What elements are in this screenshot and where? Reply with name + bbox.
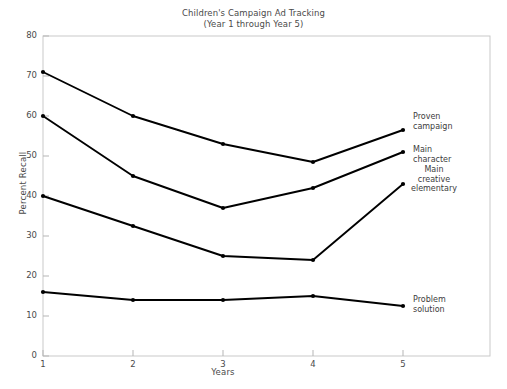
y-tick-label: 60 — [7, 110, 37, 120]
series-line-1 — [43, 116, 403, 208]
y-tick-label: 10 — [7, 310, 37, 320]
x-tick-label: 2 — [121, 359, 145, 369]
data-point-marker — [311, 160, 315, 164]
data-point-marker — [131, 224, 135, 228]
y-tick-label: 20 — [7, 270, 37, 280]
y-tick-label: 50 — [7, 150, 37, 160]
data-point-marker — [41, 194, 45, 198]
data-point-marker — [221, 142, 225, 146]
series-label-3: Problemsolution — [413, 295, 446, 314]
data-point-marker — [311, 186, 315, 190]
series-label-line: elementary — [411, 184, 457, 194]
x-tick-label: 5 — [391, 359, 415, 369]
data-point-marker — [311, 258, 315, 262]
series-label-line: campaign — [413, 122, 452, 132]
series-label-line: creative — [411, 175, 457, 185]
series-label-line: solution — [413, 305, 446, 315]
y-tick-label: 40 — [7, 190, 37, 200]
data-point-marker — [131, 174, 135, 178]
y-tick-label: 30 — [7, 230, 37, 240]
series-label-0: Provencampaign — [413, 112, 452, 131]
data-point-marker — [131, 298, 135, 302]
series-label-line: Problem — [413, 295, 446, 305]
data-point-marker — [41, 70, 45, 74]
y-tick-label: 80 — [7, 30, 37, 40]
data-point-marker — [131, 114, 135, 118]
data-point-marker — [221, 298, 225, 302]
data-point-marker — [401, 304, 405, 308]
y-tick-label: 70 — [7, 70, 37, 80]
data-point-marker — [311, 294, 315, 298]
x-tick-label: 1 — [31, 359, 55, 369]
series-line-2 — [43, 184, 403, 260]
line-chart: Children's Campaign Ad Tracking (Year 1 … — [0, 0, 507, 389]
series-label-line: Proven — [413, 112, 452, 122]
data-point-marker — [401, 128, 405, 132]
series-label-1: Maincharacter — [413, 145, 451, 164]
plot-area — [0, 0, 507, 389]
data-point-marker — [401, 182, 405, 186]
series-label-line: character — [413, 155, 451, 165]
data-point-marker — [41, 290, 45, 294]
x-tick-label: 3 — [211, 359, 235, 369]
series-label-2: Maincreativeelementary — [411, 165, 457, 194]
series-line-0 — [43, 72, 403, 162]
x-tick-label: 4 — [301, 359, 325, 369]
data-point-marker — [221, 206, 225, 210]
data-point-marker — [221, 254, 225, 258]
series-label-line: Main — [413, 145, 451, 155]
data-point-marker — [401, 150, 405, 154]
data-point-marker — [41, 114, 45, 118]
series-label-line: Main — [411, 165, 457, 175]
